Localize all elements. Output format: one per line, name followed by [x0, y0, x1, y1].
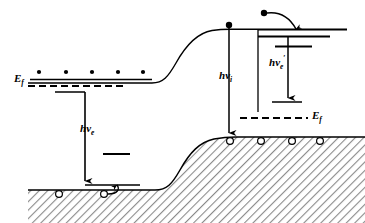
photon-subscript: i: [230, 75, 232, 84]
right-top-levels: [258, 30, 347, 113]
valence-band-hatched-region: [28, 137, 365, 223]
hole-circle: [56, 191, 63, 198]
hole-circle: [317, 138, 324, 145]
photon-emitted-prime-label: hνe′: [269, 55, 286, 70]
electron-dot-top: [226, 22, 232, 28]
electron-dot-incoming: [261, 10, 267, 16]
photon-subscript: e: [280, 62, 283, 71]
electron-dot: [64, 70, 68, 74]
electron-dot: [37, 70, 41, 74]
electron-dot: [141, 70, 145, 74]
fermi-subscript: f: [21, 78, 24, 87]
band-diagram-canvas: [0, 0, 365, 223]
hole-circle: [289, 138, 296, 145]
electron-dots-left: [37, 70, 145, 74]
prime-symbol: ′: [283, 54, 285, 63]
hole-circle: [227, 138, 234, 145]
photon-incident-label: hνi: [219, 70, 232, 84]
electron-dot: [116, 70, 120, 74]
fermi-level-left-label: Ef: [14, 73, 24, 87]
electron-dot: [90, 70, 94, 74]
emission-arrow-left: [55, 92, 140, 185]
hole-circle: [101, 191, 108, 198]
fermi-subscript: f: [319, 115, 322, 124]
electron-capture-arrow: [261, 10, 296, 29]
hole-circle: [258, 138, 265, 145]
fermi-level-right-label: Ef: [312, 110, 322, 124]
band-diagram-figure: Ef hνe hνi hνe′ Ef: [0, 0, 365, 223]
photon-subscript: e: [91, 128, 94, 137]
photon-emitted-label: hνe: [80, 123, 94, 137]
